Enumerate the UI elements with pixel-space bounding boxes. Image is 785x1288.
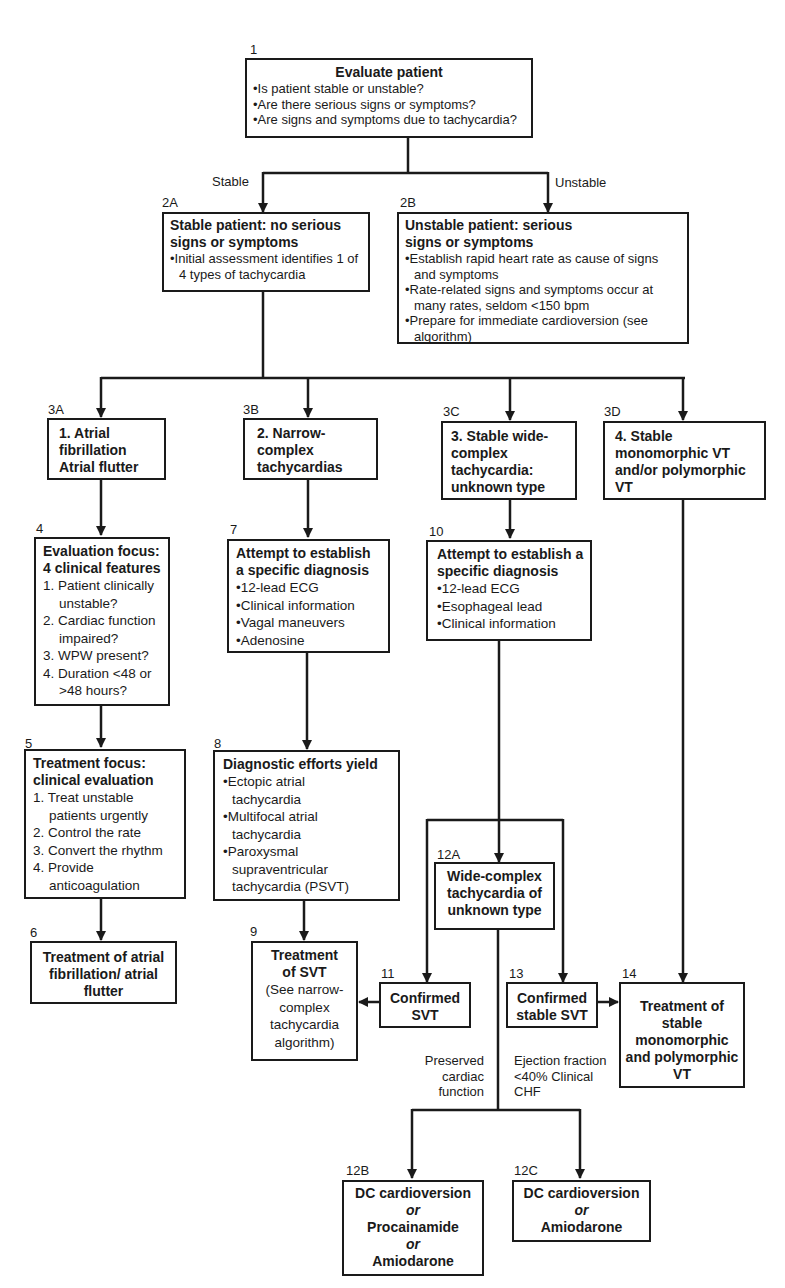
node-3c-title: 3. Stable wide-complex tachycardia: unkn… <box>451 428 569 496</box>
node-12c-or: or <box>518 1202 645 1219</box>
node-3c-number: 3C <box>443 405 460 419</box>
node-8-number: 8 <box>214 737 221 751</box>
node-8-item: Multifocal atrial tachycardia <box>223 808 363 843</box>
node-preserved-function-treatment[interactable]: DC cardioversion or Procainamide or Amio… <box>342 1180 484 1276</box>
node-11-number: 11 <box>381 967 395 981</box>
node-5-items: 1. Treat unstable patients urgently 2. C… <box>33 789 178 894</box>
node-2b-items: Establish rapid heart rate as cause of s… <box>405 251 681 344</box>
node-5-item: 4. Provide anticoagulation <box>33 859 178 894</box>
node-4-item: 3. WPW present? <box>43 647 162 665</box>
node-treatment-vt[interactable]: Treatment of stable monomorphic and poly… <box>619 982 745 1088</box>
node-diagnostic-yield[interactable]: Diagnostic efforts yield Ectopic atrial … <box>213 750 400 901</box>
node-12b-number: 12B <box>346 1164 369 1178</box>
node-1-item: Are signs and symptoms due to tachycardi… <box>253 112 525 128</box>
node-7-item: Adenosine <box>236 632 382 650</box>
node-4-item: 4. Duration <48 or >48 hours? <box>43 665 162 700</box>
node-low-ef-treatment[interactable]: DC cardioversion or Amiodarone <box>512 1180 651 1242</box>
node-14-number: 14 <box>622 967 636 981</box>
node-2a-item: Initial assessment identifies 1 of 4 typ… <box>170 251 362 282</box>
node-evaluation-focus[interactable]: Evaluation focus: 4 clinical features 1.… <box>34 537 170 706</box>
node-2b-number: 2B <box>400 196 416 210</box>
node-13-title: Confirmed stable SVT <box>512 990 592 1024</box>
node-4-number: 4 <box>36 522 43 536</box>
node-8-item: Paroxysmal supraventricular tachycardia … <box>223 843 363 896</box>
node-confirmed-stable-svt[interactable]: Confirmed stable SVT <box>506 982 598 1028</box>
node-4-item: 1. Patient clinically unstable? <box>43 577 162 612</box>
node-2a-items: Initial assessment identifies 1 of 4 typ… <box>170 251 362 282</box>
node-6-number: 6 <box>30 926 37 940</box>
node-12c-line: Amiodarone <box>518 1219 645 1236</box>
node-narrow-diagnosis[interactable]: Attempt to establish a specific diagnosi… <box>227 539 390 653</box>
node-12a-title: Wide-complex tachycardia of unknown type <box>440 868 549 919</box>
node-8-item: Ectopic atrial tachycardia <box>223 773 363 808</box>
node-12b-line: Procainamide <box>348 1219 478 1236</box>
node-10-item: 12-lead ECG <box>437 580 584 598</box>
node-9-note: (See narrow-complex tachycardia algorith… <box>257 981 352 1051</box>
node-10-title: Attempt to establish a specific diagnosi… <box>437 546 584 580</box>
node-5-title: Treatment focus: clinical evaluation <box>33 755 178 789</box>
node-1-item: Are there serious signs or symptoms? <box>253 97 525 113</box>
node-8-items: Ectopic atrial tachycardia Multifocal at… <box>223 773 363 896</box>
node-12b-or: or <box>348 1236 478 1253</box>
node-atrial-fibrillation[interactable]: 1. Atrial fibrillation Atrial flutter <box>47 418 166 480</box>
node-wide-complex-unknown[interactable]: Wide-complex tachycardia of unknown type <box>434 862 555 930</box>
node-5-item: 3. Convert the rhythm <box>33 842 178 860</box>
node-treatment-svt[interactable]: Treatment of SVT (See narrow-complex tac… <box>251 941 358 1061</box>
node-confirmed-svt[interactable]: Confirmed SVT <box>379 982 471 1028</box>
node-1-item: Is patient stable or unstable? <box>253 81 525 97</box>
node-9-title: Treatment of SVT <box>265 947 345 981</box>
node-13-number: 13 <box>509 967 523 981</box>
node-5-item: 1. Treat unstable patients urgently <box>33 789 178 824</box>
node-narrow-complex[interactable]: 2. Narrow-complex tachycardias <box>243 418 378 480</box>
node-14-title: Treatment of stable monomorphic and poly… <box>625 998 739 1083</box>
node-3a-title: 1. Atrial fibrillation Atrial flutter <box>59 425 158 476</box>
node-3a-number: 3A <box>48 403 64 417</box>
node-10-items: 12-lead ECG Esophageal lead Clinical inf… <box>437 580 584 633</box>
branch-label-unstable: Unstable <box>555 175 606 191</box>
node-stable-patient[interactable]: Stable patient: no serious signs or symp… <box>162 212 370 292</box>
node-6-title: Treatment of atrial fibrillation/ atrial… <box>40 949 167 1000</box>
branch-label-stable: Stable <box>212 174 249 190</box>
node-12b-line: DC cardioversion <box>348 1185 478 1202</box>
node-treatment-focus[interactable]: Treatment focus: clinical evaluation 1. … <box>24 749 186 899</box>
node-3b-title: 2. Narrow-complex tachycardias <box>257 425 357 476</box>
node-8-title: Diagnostic efforts yield <box>223 756 392 773</box>
node-7-items: 12-lead ECG Clinical information Vagal m… <box>236 579 382 649</box>
node-3d-title: 4. Stable monomorphic VT and/or polymorp… <box>615 428 758 496</box>
node-1-title: Evaluate patient <box>253 64 525 81</box>
node-9-number: 9 <box>250 925 257 939</box>
node-12b-or: or <box>348 1202 478 1219</box>
node-2a-number: 2A <box>162 196 178 210</box>
node-wide-diagnosis[interactable]: Attempt to establish a specific diagnosi… <box>426 540 592 641</box>
node-3b-number: 3B <box>243 403 259 417</box>
node-7-item: Clinical information <box>236 597 382 615</box>
node-1-number: 1 <box>250 43 257 57</box>
node-treatment-af[interactable]: Treatment of atrial fibrillation/ atrial… <box>30 941 177 1004</box>
node-10-item: Esophageal lead <box>437 598 584 616</box>
node-stable-wide-complex[interactable]: 3. Stable wide-complex tachycardia: unkn… <box>441 421 577 500</box>
node-11-title: Confirmed SVT <box>389 990 461 1024</box>
node-2b-item: Establish rapid heart rate as cause of s… <box>405 251 664 282</box>
node-stable-vt[interactable]: 4. Stable monomorphic VT and/or polymorp… <box>603 421 766 500</box>
branch-label-preserved-function: Preserved cardiac function <box>400 1053 484 1100</box>
branch-label-low-ejection-fraction: Ejection fraction <40% Clinical CHF <box>514 1053 618 1100</box>
node-4-items: 1. Patient clinically unstable? 2. Cardi… <box>43 577 162 700</box>
node-4-title: Evaluation focus: 4 clinical features <box>43 543 162 577</box>
node-12b-line: Amiodarone <box>348 1253 478 1270</box>
node-7-number: 7 <box>230 523 237 537</box>
node-1-items: Is patient stable or unstable? Are there… <box>253 81 525 128</box>
node-5-item: 2. Control the rate <box>33 824 178 842</box>
node-2b-title: Unstable patient: serious signs or sympt… <box>405 217 605 251</box>
node-4-item: 2. Cardiac function impaired? <box>43 612 162 647</box>
node-evaluate-patient[interactable]: Evaluate patient Is patient stable or un… <box>245 58 533 138</box>
node-2a-title: Stable patient: no serious signs or symp… <box>170 217 362 251</box>
node-12c-number: 12C <box>514 1164 538 1178</box>
node-3d-number: 3D <box>604 405 621 419</box>
node-unstable-patient[interactable]: Unstable patient: serious signs or sympt… <box>397 212 689 344</box>
tachycardia-algorithm-diagram: 1 Evaluate patient Is patient stable or … <box>0 0 785 1288</box>
node-10-item: Clinical information <box>437 615 584 633</box>
node-12a-number: 12A <box>437 848 460 862</box>
node-2b-item: Rate-related signs and symptoms occur at… <box>405 282 681 313</box>
node-7-title: Attempt to establish a specific diagnosi… <box>236 545 382 579</box>
node-7-item: Vagal maneuvers <box>236 614 382 632</box>
